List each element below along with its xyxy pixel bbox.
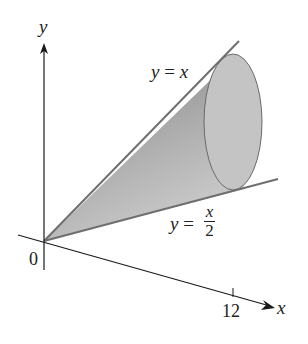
x-tick-label-12: 12 [222, 302, 240, 320]
cone-diagram: y x 0 12 y = x y = x 2 [0, 0, 308, 344]
label-rhs: x [180, 61, 188, 82]
x-axis-label: x [277, 298, 285, 317]
label-equals: = [183, 213, 194, 234]
label-lhs: y [170, 213, 178, 234]
label-y-equals-x: y = x [151, 62, 188, 81]
label-lhs: y [151, 61, 159, 82]
x-axis-arrow-icon [261, 300, 275, 310]
diagram-canvas [0, 0, 308, 344]
label-equals: = [164, 61, 175, 82]
cone-base-ellipse [204, 54, 262, 190]
origin-label: 0 [29, 250, 38, 268]
fraction-denominator: 2 [205, 223, 214, 239]
y-axis-label: y [39, 17, 47, 36]
label-fraction-x-over-2: x 2 [204, 204, 215, 239]
x-axis [18, 235, 270, 306]
label-y-equals-half-x-lhs: y = [170, 214, 194, 233]
fraction-numerator: x [206, 204, 214, 220]
